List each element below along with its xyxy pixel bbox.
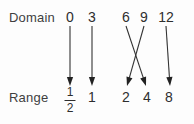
arrowhead-12-to-8 — [166, 77, 172, 86]
mapping-line-12-to-8 — [166, 26, 170, 79]
arrowhead-9-to-2 — [126, 76, 132, 86]
arrowhead-3-to-1 — [89, 77, 95, 86]
mapping-line-6-to-4 — [126, 26, 144, 79]
domain-range-mapping-figure: Domain Range 0 3 6 9 12 1 2 1 2 4 8 — [0, 0, 194, 124]
mapping-arrows — [0, 0, 194, 124]
mapping-line-9-to-2 — [129, 26, 144, 79]
arrowhead-6-to-4 — [140, 76, 146, 86]
arrowhead-0-to-1/2 — [67, 77, 73, 86]
